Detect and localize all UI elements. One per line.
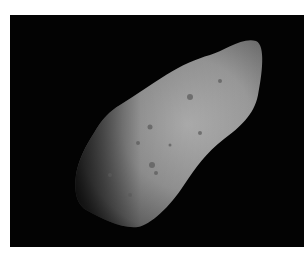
asteroid-photo xyxy=(10,15,304,247)
asteroid-illustration xyxy=(10,15,304,247)
